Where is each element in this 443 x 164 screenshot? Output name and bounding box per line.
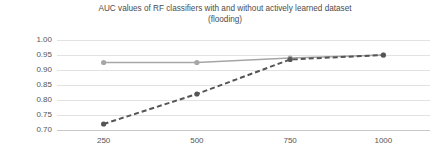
series-lines: [57, 40, 430, 130]
x-tick-label: 250: [84, 136, 124, 146]
y-axis-tick-labels: 1.000.950.900.850.800.750.70: [0, 40, 52, 130]
series-line: [104, 55, 384, 124]
x-tick-label: 750: [270, 136, 310, 146]
x-axis-tick-labels: 2505007501000: [57, 136, 430, 150]
x-tick-label: 1000: [363, 136, 403, 146]
data-point-marker: [381, 52, 386, 57]
x-tick-label: 500: [177, 136, 217, 146]
y-tick-label: 0.75: [0, 111, 52, 119]
data-point-marker: [288, 57, 293, 62]
y-tick-label: 1.00: [0, 36, 52, 44]
chart-figure: AUC values of RF classifiers with and wi…: [0, 0, 443, 164]
y-tick-label: 0.95: [0, 51, 52, 59]
y-tick-label: 0.85: [0, 81, 52, 89]
x-axis-line: [57, 130, 430, 131]
data-point-marker: [101, 60, 106, 65]
y-tick-label: 0.70: [0, 126, 52, 134]
y-tick-label: 0.90: [0, 66, 52, 74]
plot-area: [57, 40, 430, 130]
chart-title: AUC values of RF classifiers with and wi…: [40, 3, 410, 25]
data-point-marker: [194, 91, 199, 96]
y-tick-label: 0.80: [0, 96, 52, 104]
data-point-marker: [194, 60, 199, 65]
data-point-marker: [101, 121, 106, 126]
